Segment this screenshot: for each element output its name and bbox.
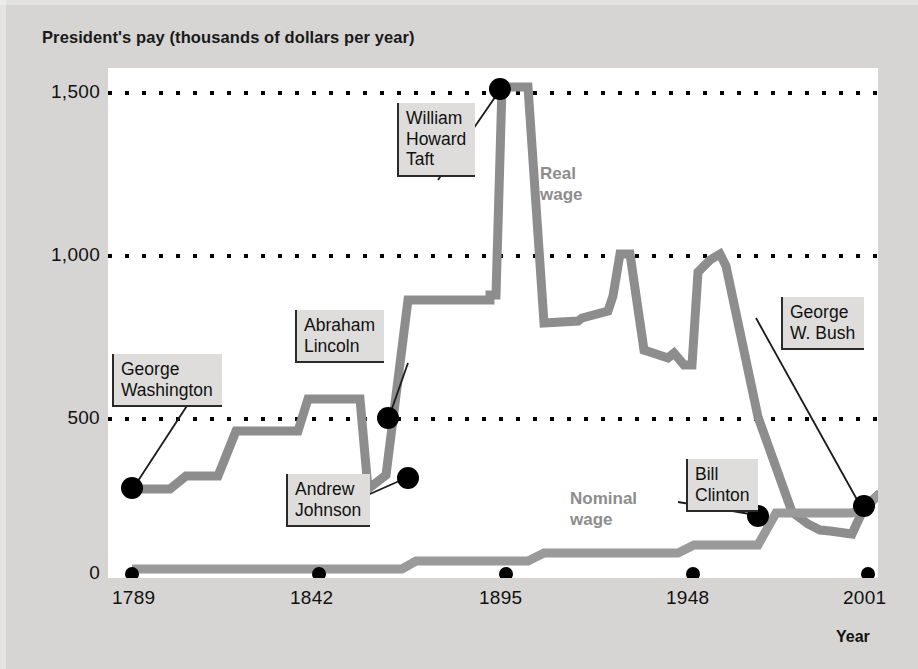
chart-figure: President's pay (thousands of dollars pe… xyxy=(0,0,918,669)
y-axis-tick-0: 0 xyxy=(24,562,100,584)
annotation-william-howard-taft: William Howard Taft xyxy=(397,103,475,177)
marker-taft xyxy=(489,78,511,100)
marker-washington xyxy=(121,477,143,499)
annotation-bill-clinton: Bill Clinton xyxy=(686,459,758,512)
chart-title: President's pay (thousands of dollars pe… xyxy=(42,28,415,47)
plot-svg xyxy=(108,68,878,578)
series-label-nominal-wage: Nominal wage xyxy=(570,488,637,530)
marker-lincoln xyxy=(377,407,399,429)
annotation-andrew-johnson: Andrew Johnson xyxy=(286,474,370,527)
x-axis-tick-1895: 1895 xyxy=(479,587,522,609)
series-label-real-wage: Real wage xyxy=(540,163,583,205)
marker-johnson xyxy=(397,467,419,489)
annotation-george-w-bush: George W. Bush xyxy=(781,297,864,350)
series-real-wage xyxy=(132,87,878,534)
annotation-george-washington: George Washington xyxy=(112,354,222,407)
x-axis-tick-1948: 1948 xyxy=(666,587,709,609)
plot-area: Real wage Nominal wage xyxy=(108,68,878,578)
marker-bush xyxy=(853,495,875,517)
y-axis-tick-1000: 1,000 xyxy=(24,244,100,266)
series-nominal-wage xyxy=(132,493,878,569)
x-axis-label: Year xyxy=(836,628,870,646)
x-axis-tick-1789: 1789 xyxy=(112,587,155,609)
x-axis-tick-1842: 1842 xyxy=(290,587,333,609)
annotation-abraham-lincoln: Abraham Lincoln xyxy=(295,310,384,363)
x-axis-tick-2001: 2001 xyxy=(843,587,886,609)
y-axis-tick-1500: 1,500 xyxy=(24,81,100,103)
y-axis-tick-500: 500 xyxy=(24,407,100,429)
